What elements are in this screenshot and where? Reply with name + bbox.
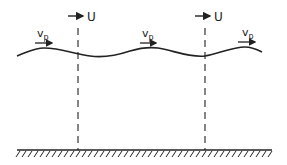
svg-text:vp: vp — [242, 26, 254, 41]
phase-velocity-2: vp — [140, 27, 156, 43]
wave-diagram: U U vp vp vp — [0, 0, 287, 165]
bottom-boundary — [16, 150, 272, 157]
phase-velocity-3: vp — [238, 26, 255, 42]
svg-text:vp: vp — [37, 27, 49, 42]
svg-text:vp: vp — [142, 27, 154, 42]
surface-wave — [17, 47, 262, 57]
u-label-2: U — [214, 10, 223, 24]
vp-sub-1: p — [44, 33, 49, 42]
u-velocity-arrow-1: U — [68, 10, 96, 24]
u-label-1: U — [87, 10, 96, 24]
u-velocity-arrow-2: U — [195, 10, 223, 24]
vp-sub-3: p — [249, 32, 254, 41]
vp-sub-2: p — [149, 33, 154, 42]
phase-velocity-1: vp — [35, 27, 52, 43]
